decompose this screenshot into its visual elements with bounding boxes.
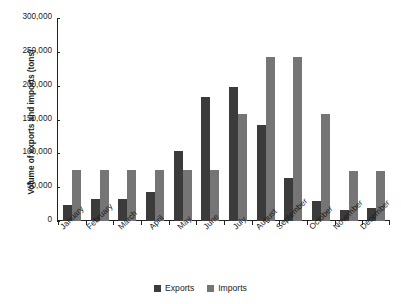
y-tick-label: 200,000 xyxy=(22,80,52,89)
bar-group xyxy=(196,18,224,221)
bar-group xyxy=(86,18,114,221)
bar-group xyxy=(335,18,363,221)
bar-group xyxy=(141,18,169,221)
imports-swatch xyxy=(207,285,214,292)
bar-group xyxy=(58,18,86,221)
bar-group xyxy=(307,18,335,221)
x-label-cell: September xyxy=(279,224,307,274)
y-tick-label: 0 xyxy=(47,215,52,224)
x-label-cell: December xyxy=(362,224,390,274)
bar-group xyxy=(113,18,141,221)
bar-group xyxy=(279,18,307,221)
bar-group xyxy=(252,18,280,221)
legend-item-imports[interactable]: Imports xyxy=(207,283,247,293)
x-label-cell: March xyxy=(113,224,141,274)
bar-group xyxy=(224,18,252,221)
x-label-cell: February xyxy=(86,224,114,274)
legend-label: Imports xyxy=(218,283,247,293)
legend-item-exports[interactable]: Exports xyxy=(154,283,194,293)
legend-label: Exports xyxy=(165,283,194,293)
bar-group xyxy=(362,18,390,221)
bar-exports-august[interactable] xyxy=(257,125,266,221)
x-label-cell: May xyxy=(169,224,197,274)
bar-exports-june[interactable] xyxy=(201,97,210,222)
bar-exports-april[interactable] xyxy=(146,192,155,221)
y-tick-label: 250,000 xyxy=(22,46,52,55)
x-axis-labels: JanuaryFebruaryMarchAprilMayJuneJulyAugu… xyxy=(58,224,390,274)
bar-series-container xyxy=(58,18,390,221)
y-tick-label: 150,000 xyxy=(22,114,52,123)
y-tick-label: 50,000 xyxy=(27,181,52,190)
x-label-cell: June xyxy=(196,224,224,274)
bar-imports-august[interactable] xyxy=(266,57,275,221)
bar-exports-may[interactable] xyxy=(174,151,183,221)
plot-area: 300,000250,000200,000150,000100,00050,00… xyxy=(57,18,390,221)
y-tick-label: 300,000 xyxy=(22,12,52,21)
x-label-cell: July xyxy=(224,224,252,274)
x-label-cell: November xyxy=(335,224,363,274)
y-tick-label: 100,000 xyxy=(22,147,52,156)
chart-legend: ExportsImports xyxy=(0,283,401,293)
x-label-cell: April xyxy=(141,224,169,274)
bar-exports-july[interactable] xyxy=(229,87,238,221)
bar-imports-september[interactable] xyxy=(293,57,302,221)
bar-group xyxy=(169,18,197,221)
x-label-cell: August xyxy=(252,224,280,274)
exports-swatch xyxy=(154,285,161,292)
x-label-cell: January xyxy=(58,224,86,274)
bar-chart-figure: Volume of exports and imports (tons) 300… xyxy=(0,0,401,304)
bar-imports-july[interactable] xyxy=(238,114,247,221)
x-label-cell: October xyxy=(307,224,335,274)
